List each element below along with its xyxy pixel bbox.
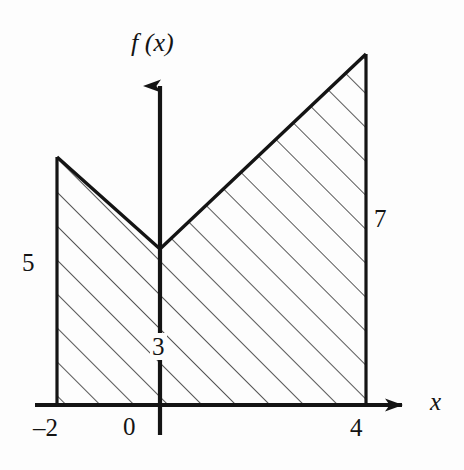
right-height-label: 7 xyxy=(374,206,387,231)
x-tick-label-four: 4 xyxy=(350,415,363,440)
x-tick-label-zero: 0 xyxy=(123,414,136,439)
y-intercept-label: 3 xyxy=(150,333,167,360)
x-axis-label: x xyxy=(430,389,441,414)
function-plot-svg xyxy=(0,0,464,470)
shaded-region xyxy=(57,54,366,405)
left-height-label: 5 xyxy=(22,250,35,275)
x-tick-label-negative-two: –2 xyxy=(33,415,58,440)
y-axis-label: f (x) xyxy=(131,30,174,56)
figure-canvas: f (x) x 5 7 3 –2 0 4 xyxy=(0,0,464,470)
